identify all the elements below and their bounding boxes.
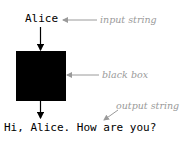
input-string-value: Alice [25,12,58,25]
output-string-value: Hi, Alice. How are you? [4,121,156,134]
output-string-label: output string [116,100,179,111]
input-string-label: input string [100,14,157,25]
output-label-pointer [104,110,118,120]
black-box [16,51,66,101]
black-box-label: black box [102,69,148,80]
